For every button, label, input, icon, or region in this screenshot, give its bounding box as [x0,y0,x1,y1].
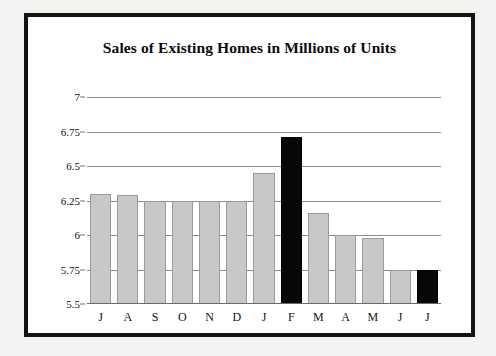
y-axis-tick-label: 5.75 [61,264,80,276]
bar-j-12 [417,270,438,305]
bar-m-10 [362,238,383,304]
gridline [87,166,441,167]
gridline [87,97,441,98]
bar-d-5 [226,201,247,305]
x-axis-tick-label: M [368,310,379,325]
x-axis-tick-label: F [288,310,295,325]
y-axis-tick-label: 6.5 [66,160,80,172]
plot-area: 5.55.7566.256.56.757 JASONDJFMAMJJ [87,97,441,304]
x-axis-tick-label: A [341,310,350,325]
x-axis-tick-label: M [313,310,324,325]
y-axis-tick-mark [80,97,85,98]
bar-j-0 [90,194,111,304]
chart-figure-frame: Sales of Existing Homes in Millions of U… [24,13,475,337]
y-axis-tick-label: 7 [75,91,81,103]
y-axis-tick-mark [80,166,85,167]
bar-j-6 [253,173,274,304]
x-axis-tick-label: J [98,310,103,325]
x-axis-tick-label: N [205,310,214,325]
y-axis-tick-mark [80,200,85,201]
x-axis-tick-label: A [124,310,133,325]
y-axis-tick-mark [80,304,85,305]
bar-m-8 [308,213,329,304]
bar-n-4 [199,201,220,305]
y-axis-tick-mark [80,235,85,236]
bar-j-11 [390,270,411,305]
y-axis-tick-label: 5.5 [66,298,80,310]
x-axis-tick-label: D [232,310,241,325]
y-axis-tick-label: 6.25 [61,195,80,207]
x-axis-tick-label: J [425,310,430,325]
y-axis-tick-mark [80,269,85,270]
x-axis-tick-label: O [178,310,187,325]
bar-f-7 [281,137,302,304]
bar-a-9 [335,235,356,304]
bar-s-2 [144,201,165,305]
bar-a-1 [117,195,138,304]
x-axis-tick-label: J [262,310,267,325]
y-axis-tick-label: 6 [75,229,81,241]
bar-o-3 [172,201,193,305]
chart-title: Sales of Existing Homes in Millions of U… [28,39,471,57]
y-axis-tick-label: 6.75 [61,126,80,138]
x-axis-tick-label: S [152,310,159,325]
x-axis-tick-label: J [398,310,403,325]
y-axis-tick-mark [80,131,85,132]
screenshot-canvas: Sales of Existing Homes in Millions of U… [0,0,496,356]
gridline [87,132,441,133]
x-axis-line [87,303,441,304]
